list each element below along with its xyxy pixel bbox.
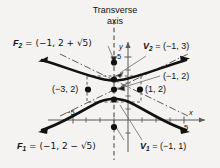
figure-title: Transverse axis <box>79 5 151 27</box>
label-vertex-2-eq: = (−1, 3) <box>153 41 190 51</box>
label-focus-1-eq: = (−1, 2 − √5) <box>26 141 96 151</box>
hyperbola-figure: Transverse axis x y 5 5 −5 F2 = (−1, 2 +… <box>0 0 220 168</box>
y-axis-label: y <box>119 42 123 51</box>
point-right-corner <box>137 86 143 92</box>
label-vertex-2: V2 = (−1, 3) <box>143 42 189 52</box>
point-center <box>111 86 117 92</box>
point-left-corner <box>85 86 91 92</box>
label-focus-2: F2 = (−1, 2 + √5) <box>13 39 92 49</box>
x-axis-label: x <box>189 108 193 117</box>
label-focus-2-eq: = (−1, 2 + √5) <box>22 38 92 48</box>
label-focus-1: F1 = (−1, 2 − √5) <box>17 142 96 152</box>
label-right-corner: (1, 2) <box>145 85 166 94</box>
asymptotes <box>60 54 188 116</box>
x-tick-label-5: 5 <box>184 123 188 132</box>
label-vertex-1-eq: = (−1, 1) <box>150 141 187 151</box>
y-tick-label-5: 5 <box>117 52 121 61</box>
label-center: (−1, 2) <box>163 72 189 81</box>
point-V1 <box>111 96 117 102</box>
label-vertex-1: V1 = (−1, 1) <box>140 142 186 152</box>
point-V2 <box>111 76 117 82</box>
x-tick-label-neg5: −5 <box>66 108 75 117</box>
figure-title-line1: Transverse <box>79 5 151 16</box>
figure-title-line2: axis <box>79 16 151 27</box>
label-left-corner: (−3, 2) <box>52 85 78 94</box>
point-F1 <box>111 124 117 130</box>
